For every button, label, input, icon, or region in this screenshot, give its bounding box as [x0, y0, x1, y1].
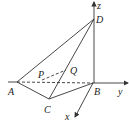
edge-ac: [17, 82, 49, 99]
label-b: B: [94, 86, 100, 97]
edge-ab: [17, 82, 93, 83]
label-z: z: [96, 0, 101, 11]
label-p: P: [37, 69, 44, 80]
label-x: x: [64, 111, 70, 122]
tetrahedron-diagram: z D Q P A B y C x: [0, 0, 129, 125]
label-c: C: [44, 104, 51, 115]
label-d: D: [95, 14, 104, 25]
edge-ad: [17, 19, 94, 82]
label-a: A: [7, 86, 15, 97]
edge-cd: [49, 19, 94, 99]
label-y: y: [117, 86, 123, 97]
edge-cb: [49, 83, 93, 99]
label-q: Q: [70, 65, 78, 76]
